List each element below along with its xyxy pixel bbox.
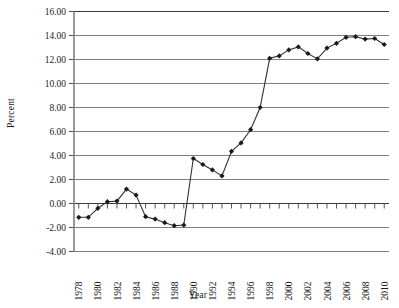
- data-point-marker: [277, 53, 282, 58]
- y-axis-tick-label: 6.00: [49, 127, 66, 137]
- x-axis-tick-label: 1994: [227, 281, 237, 300]
- x-axis-tick-label: 1986: [151, 281, 161, 300]
- data-point-marker: [76, 215, 81, 220]
- y-axis-tick-label: -2.00: [46, 223, 66, 233]
- data-point-marker: [181, 223, 186, 228]
- data-point-marker: [133, 193, 138, 198]
- data-point-marker: [267, 56, 272, 61]
- data-point-marker: [143, 214, 148, 219]
- x-axis-tick-label: 2000: [284, 281, 294, 300]
- data-point-marker: [382, 42, 387, 47]
- y-axis-tick-label: 14.00: [45, 31, 67, 41]
- x-axis-tick-label: 2008: [361, 281, 371, 300]
- y-axis-title: Percent: [6, 78, 16, 148]
- data-point-marker: [372, 36, 377, 41]
- y-axis-tick-label: 4.00: [49, 151, 66, 161]
- y-axis-tick-label: 16.00: [45, 7, 67, 17]
- y-axis-tick-label: 10.00: [45, 79, 67, 89]
- x-axis-tick-label: 2004: [323, 281, 333, 300]
- y-axis-tick-label: -4.00: [46, 247, 66, 257]
- data-point-marker: [258, 105, 263, 110]
- data-point-marker: [162, 220, 167, 225]
- x-axis-tick-label: 2002: [303, 281, 313, 300]
- x-axis-tick-label: 1978: [74, 281, 84, 300]
- data-point-marker: [191, 156, 196, 161]
- data-point-marker: [219, 173, 224, 178]
- data-point-marker: [363, 37, 368, 42]
- y-axis-tick-label: 0.00: [49, 199, 66, 209]
- x-axis-tick-label: 1996: [246, 281, 256, 300]
- data-point-marker: [286, 47, 291, 52]
- data-point-marker: [153, 217, 158, 222]
- data-point-marker: [334, 41, 339, 46]
- x-axis-tick-label: 1984: [132, 281, 142, 300]
- x-axis-title: Year: [168, 290, 228, 300]
- x-axis-tick-label: 2006: [342, 281, 352, 300]
- x-axis-tick-label: 1998: [265, 281, 275, 300]
- data-point-marker: [353, 34, 358, 39]
- data-point-marker: [200, 162, 205, 167]
- line-chart: 16.0014.0012.0010.008.006.004.002.000.00…: [0, 0, 399, 308]
- y-axis-tick-label: 12.00: [45, 55, 67, 65]
- x-axis-tick-label: 2010: [380, 281, 390, 300]
- y-axis-tick-label: 2.00: [49, 175, 66, 185]
- x-axis-tick-label: 1980: [93, 281, 103, 300]
- data-point-marker: [210, 167, 215, 172]
- x-axis-tick-label: 1982: [113, 281, 123, 300]
- y-axis-tick-label: 8.00: [49, 103, 66, 113]
- chart-container: 16.0014.0012.0010.008.006.004.002.000.00…: [0, 0, 399, 308]
